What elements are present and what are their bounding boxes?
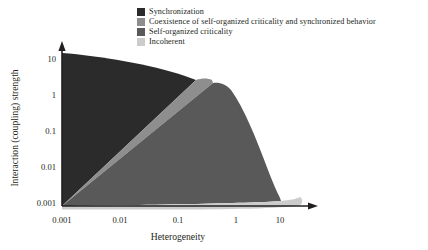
y-tick-label-10: 10 xyxy=(47,54,56,64)
y-tick-label-0.1: 0.1 xyxy=(45,126,56,136)
x-axis-arrowhead xyxy=(308,202,318,209)
phase-diagram-svg: 10 1 0.1 0.01 0.001 0.001 0.01 0.1 1 10 … xyxy=(0,0,428,250)
y-tick-label-0.01: 0.01 xyxy=(41,162,56,172)
x-tick-label-0.01: 0.01 xyxy=(112,215,127,225)
y-tick-label-1: 1 xyxy=(52,90,56,100)
y-tick-label-0.001: 0.001 xyxy=(37,198,56,208)
x-tick-label-1: 1 xyxy=(234,215,238,225)
phase-diagram-figure: Synchronization Coexistence of self-orga… xyxy=(0,0,428,250)
x-axis-title: Heterogeneity xyxy=(151,231,206,242)
y-axis-arrowhead xyxy=(58,41,65,51)
x-tick-label-10: 10 xyxy=(276,215,285,225)
plot-area: 10 1 0.1 0.01 0.001 0.001 0.01 0.1 1 10 … xyxy=(0,0,428,250)
x-tick-label-0.1: 0.1 xyxy=(173,215,184,225)
y-axis-title: Interaction (coupling) strength xyxy=(9,69,21,186)
x-tick-label-0.001: 0.001 xyxy=(52,215,71,225)
